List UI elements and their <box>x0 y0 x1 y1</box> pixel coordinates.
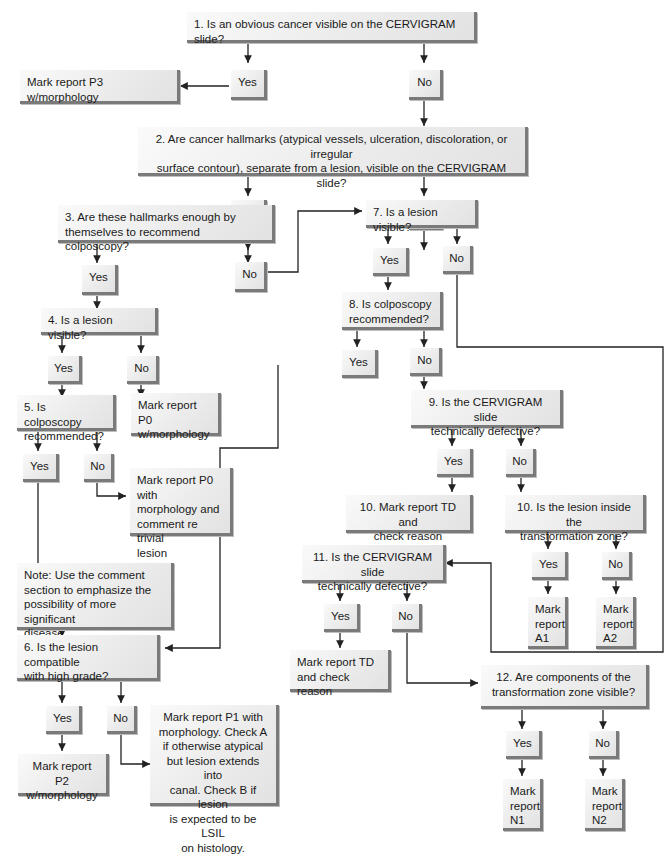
q7-no-label: No <box>443 246 473 274</box>
q9-no-label: No <box>506 449 536 477</box>
result-td-11-box: Mark report TD and check reason <box>290 650 391 692</box>
q7-yes-label: Yes <box>373 248 409 276</box>
q10-yes-label: Yes <box>532 552 568 580</box>
result-p3-box: Mark report P3 w/morphology <box>20 70 180 104</box>
q9-yes-label: Yes <box>437 449 473 477</box>
q3-no-label: No <box>235 262 267 292</box>
question-11-box: 11. Is the CERVIGRAM slide technically d… <box>302 545 446 583</box>
result-a2-box: Mark report A2 <box>596 597 636 649</box>
result-td-10-box: 10. Mark report TD and check reason <box>346 495 473 533</box>
q3-yes-label: Yes <box>82 265 118 295</box>
result-p2-box: Mark report P2 w/morphology <box>18 754 109 796</box>
question-1-box: 1. Is an obvious cancer visible on the C… <box>187 12 477 43</box>
result-p0-trivial-box: Mark report P0 with morphology and comme… <box>130 468 233 536</box>
question-7-box: 7. Is a lesion visible? <box>366 200 478 228</box>
note-box: Note: Use the comment section to emphasi… <box>17 563 174 630</box>
q4-no-label: No <box>127 356 159 384</box>
q8-yes-label: Yes <box>342 350 378 378</box>
q11-yes-label: Yes <box>324 604 360 632</box>
result-p0-morphology-box: Mark report P0 w/morphology <box>131 393 221 436</box>
q6-yes-label: Yes <box>46 706 82 734</box>
q5-yes-label: Yes <box>23 454 59 482</box>
q1-yes-label: Yes <box>231 70 267 100</box>
q11-no-label: No <box>392 604 422 632</box>
q4-yes-label: Yes <box>48 356 82 384</box>
question-12-box: 12. Are components of the transformation… <box>481 665 649 709</box>
question-8-box: 8. Is colposcopy recommended? <box>342 292 443 330</box>
q10-no-label: No <box>602 552 632 580</box>
q12-no-label: No <box>589 731 619 759</box>
q8-no-label: No <box>410 348 442 376</box>
question-10-box: 10. Is the lesion inside the transformat… <box>505 495 646 533</box>
result-p1-box: Mark report P1 with morphology. Check A … <box>150 705 279 806</box>
q5-no-label: No <box>84 454 114 482</box>
q12-yes-label: Yes <box>506 731 542 759</box>
question-2-box: 2. Are cancer hallmarks (atypical vessel… <box>138 127 528 176</box>
question-3-box: 3. Are these hallmarks enough by themsel… <box>58 205 275 243</box>
q1-no-label: No <box>409 70 443 100</box>
question-6-box: 6. Is the lesion compatible with high gr… <box>17 635 160 681</box>
question-5-box: 5. Is colposcopy recommended? <box>17 395 116 431</box>
result-n1-box: Mark report N1 <box>503 779 543 831</box>
result-a1-box: Mark report A1 <box>528 597 568 649</box>
question-4-box: 4. Is a lesion visible? <box>41 308 158 335</box>
result-n2-box: Mark report N2 <box>585 779 625 831</box>
question-9-box: 9. Is the CERVIGRAM slide technically de… <box>411 390 563 428</box>
q6-no-label: No <box>107 706 137 734</box>
